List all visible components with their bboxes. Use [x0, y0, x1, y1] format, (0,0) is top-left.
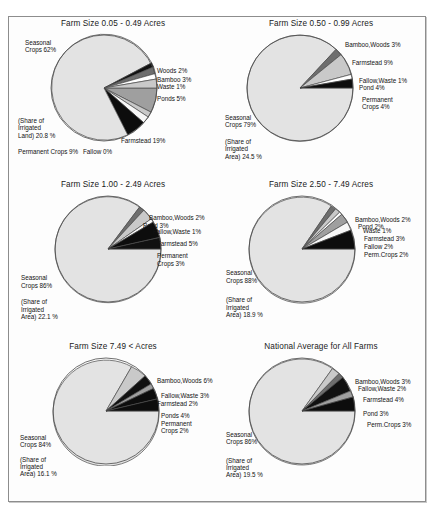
panel-5-label-bamboo-woods: Bamboo,Woods 6%: [157, 377, 213, 384]
panel-1-label-farmstead: Farmstead 19%: [121, 137, 165, 144]
panel-2-pie: [245, 33, 355, 143]
panel-2-share-note: (Share of Irrigated Area) 24.5 %: [225, 138, 262, 160]
panel-2-label-pond: Pond 4%: [359, 84, 385, 91]
panel-1-label-woods: Woods 2%: [157, 67, 187, 74]
panel-1-label-permanent: Permanent Crops 9%: [18, 148, 78, 155]
panel-3-label-seasonal: Seasonal Crops 86%: [21, 274, 52, 289]
panel-2-label-seasonal: Seasonal Crops 79%: [225, 114, 256, 129]
pie-panel-3: Farm Size 1.00 - 2.49 Acres Bamboo,Woods…: [9, 178, 217, 339]
panel-4-pie: [247, 194, 357, 304]
panel-4-label-farmstead: Farmstead 3%: [364, 235, 405, 242]
panel-4-label-seasonal: Seasonal Crops 88%: [226, 269, 257, 284]
panel-5-pie: [51, 356, 161, 466]
panel-5-label-permanent: Permanent Crops 2%: [161, 420, 192, 435]
figure-frame: Farm Size 0.05 - 0.49 Acres: [8, 16, 426, 502]
panel-3-label-farmstead: Farmstead 5%: [157, 240, 198, 247]
panel-1-label-fallow: Fallow 0%: [83, 148, 112, 155]
panel-2-label-farmstead: Farmstead 9%: [352, 59, 393, 66]
panel-2-label-permanent: Permanent Crops 4%: [362, 96, 393, 111]
panel-3-label-fallow-waste: Fallow,Waste 1%: [153, 228, 201, 235]
panel-1-label-seasonal: Seasonal Crops 62%: [25, 39, 56, 54]
panel-1-pie: [49, 33, 159, 143]
pie-panel-6: National Average for All Farms Bamboo,Wo…: [217, 340, 425, 501]
panel-6-pie: [247, 356, 357, 466]
panel-4-label-fallow: Fallow 2%: [364, 243, 393, 250]
panel-6-label-seasonal: Seasonal Crops 86%: [226, 431, 257, 446]
panel-4-label-perm-crops: Perm.Crops 2%: [364, 251, 408, 258]
panel-5-share-note: (Share of Irrigated Area) 16.1 %: [20, 456, 57, 478]
panel-6-label-fallow-waste: Fallow,Waste 2%: [358, 385, 406, 392]
panel-1-label-ponds: Ponds 5%: [157, 95, 186, 102]
panel-5-label-fallow-waste: Fallow,Waste 3%: [161, 392, 209, 399]
panel-3-pie: [53, 194, 163, 304]
pie-panel-5: Farm Size 7.49 < Acres Bamboo,Woods 6% F…: [9, 340, 217, 501]
panel-6-share-note: (Share of Irrigated Area) 19.5 %: [226, 457, 263, 479]
pie-panel-4: Farm Size 2.50 - 7.49 Acres Bamboo,W: [217, 178, 425, 339]
panel-4-label-waste: Waste 1%: [363, 227, 391, 234]
pie-panel-1: Farm Size 0.05 - 0.49 Acres: [9, 17, 217, 178]
pie-panel-2: Farm Size 0.50 - 0.99 Acres Bamboo,Woods…: [217, 17, 425, 178]
panel-1-label-waste: Waste 1%: [157, 83, 185, 90]
panel-3-label-bamboo-woods: Bamboo,Woods 2%: [149, 214, 205, 221]
panel-3-share-note: (Share of Irrigated Area) 22.1 %: [21, 298, 58, 320]
pie-chart-grid: Farm Size 0.05 - 0.49 Acres: [9, 17, 425, 501]
panel-4-share-note: (Share of Irrigated Area) 18.9 %: [226, 296, 263, 318]
panel-5-label-seasonal: Seasonal Crops 84%: [20, 434, 51, 449]
panel-6-label-farmstead: Farmstead 4%: [363, 396, 404, 403]
panel-1-share-note: (Share of Irrigated Land) 20.8 %: [18, 117, 55, 139]
panel-6-label-perm-crops: Perm.Crops 3%: [367, 421, 411, 428]
panel-5-label-farmstead: Farmstead 2%: [157, 400, 198, 407]
panel-6-label-pond: Pond 3%: [363, 410, 389, 417]
panel-2-label-bamboo-woods: Bamboo,Woods 3%: [345, 41, 401, 48]
panel-5-label-ponds: Ponds 4%: [161, 412, 190, 419]
panel-3-label-permanent: Permanent Crops 3%: [157, 252, 188, 267]
